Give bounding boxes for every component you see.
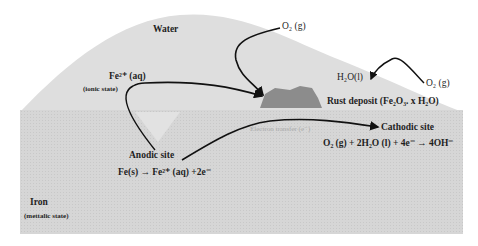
- cathodic-site-label: Cathodic site: [381, 123, 434, 133]
- o2-right-label: O₂ (g): [426, 79, 450, 89]
- anodic-site-label: Anodic site: [129, 151, 174, 161]
- water-label: Water: [153, 25, 178, 35]
- rust-deposit-label: Rust deposit (Fe₂O₃. x H₂O): [327, 97, 439, 107]
- cathode-equation: O₂ (g) + 2H₂O (l) + 4e⁻ → 4OH⁻: [323, 139, 453, 149]
- fe2-label: Fe²⁺ (aq): [109, 72, 146, 82]
- electron-transfer-label: Electron transfer (e⁻): [250, 126, 310, 133]
- ionic-state-label: (ionic state): [83, 86, 118, 93]
- iron-label: Iron: [30, 198, 48, 208]
- o2-top-label: O₂ (g): [282, 22, 306, 32]
- anode-equation: Fe(s) → Fe²⁺ (aq) +2e⁻: [118, 168, 211, 178]
- h2o-label: H₂O(l): [337, 73, 363, 83]
- metallic-state-label: (mettalic state): [24, 213, 69, 220]
